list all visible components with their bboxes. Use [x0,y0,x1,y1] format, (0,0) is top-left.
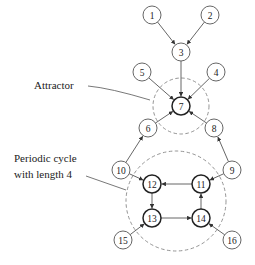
edge-16-to-14 [209,224,225,235]
node-label: 14 [196,214,206,224]
nodes: 12345678910111213141516 [112,6,241,249]
node-13: 13 [143,209,161,227]
node-label: 10 [116,166,126,176]
node-16: 16 [223,231,241,249]
edge-9-to-8 [218,137,229,162]
node-label: 2 [208,11,213,21]
node-label: 4 [214,68,219,78]
node-10: 10 [112,161,130,179]
node-4: 4 [207,63,225,81]
node-15: 15 [114,231,132,249]
edge-10-to-12 [129,174,143,180]
node-label: 8 [212,124,217,134]
edge-5-to-7 [149,78,174,100]
attractor-pointer-line [88,86,150,100]
node-label: 11 [196,180,205,190]
node-12: 12 [143,175,161,193]
node-7: 7 [172,97,190,115]
node-3: 3 [172,43,190,61]
node-8: 8 [205,119,223,137]
node-9: 9 [223,161,241,179]
node-label: 12 [147,180,157,190]
node-label: 15 [118,236,128,246]
cycle-label-line2: with length 4 [14,168,73,180]
node-label: 5 [140,68,145,78]
node-label: 1 [150,11,155,21]
edge-6-to-7 [156,111,173,123]
edge-1-to-3 [158,22,175,44]
node-6: 6 [139,119,157,137]
state-transition-diagram: 12345678910111213141516 Attractor Period… [0,0,255,265]
node-label: 9 [230,166,235,176]
edge-9-to-11 [210,174,224,180]
node-label: 7 [179,102,184,112]
node-1: 1 [143,6,161,24]
cycle-label-line1: Periodic cycle [14,152,77,164]
periodic-cycle-region [126,151,226,251]
node-label: 6 [146,124,151,134]
edge-4-to-7 [188,78,210,99]
edge-2-to-3 [187,22,204,44]
attractor-label: Attractor [34,79,74,91]
node-label: 16 [227,236,237,246]
node-14: 14 [192,209,210,227]
edge-10-to-6 [126,136,143,162]
edge-8-to-7 [189,111,206,123]
node-label: 3 [179,48,184,58]
node-5: 5 [133,63,151,81]
node-11: 11 [192,175,210,193]
node-2: 2 [201,6,219,24]
node-label: 13 [147,214,157,224]
